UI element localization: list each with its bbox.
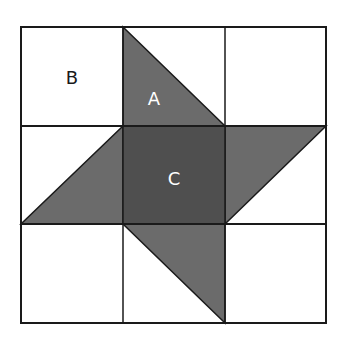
label-b: B	[66, 67, 78, 88]
label-c: C	[168, 168, 181, 189]
pinwheel-grid-diagram: B A C	[0, 0, 342, 347]
label-a: A	[148, 88, 161, 109]
